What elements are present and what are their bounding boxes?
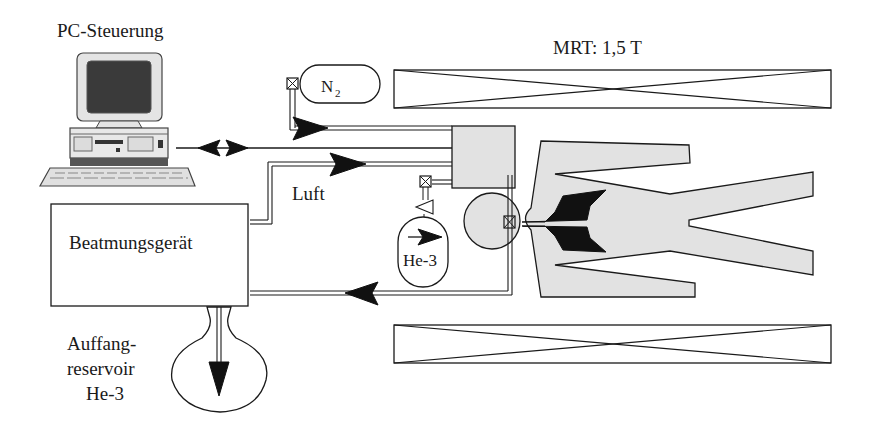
air-label: Luft <box>292 183 325 204</box>
ventilation-diagram: PC-Steuerung MRT: 1,5 T N 2 <box>0 0 869 430</box>
reservoir-label-3: He-3 <box>86 383 124 404</box>
reservoir-label-2: reservoir <box>67 358 135 379</box>
arrow-right-icon <box>330 153 366 176</box>
patient-figure <box>464 141 813 297</box>
he3-supply: He-3 <box>398 176 452 287</box>
magnet-top <box>394 70 831 108</box>
reservoir-flask <box>172 307 267 412</box>
pc-label: PC-Steuerung <box>57 20 164 41</box>
magnet-bottom <box>394 325 831 363</box>
ventilator-box <box>51 204 248 306</box>
pc-computer-icon <box>40 53 195 186</box>
n2-subscript: 2 <box>335 87 341 99</box>
arrow-down-icon <box>209 362 229 396</box>
reservoir-label-1: Auffang- <box>67 333 136 354</box>
check-valve-icon <box>416 200 433 214</box>
n2-tank: N 2 <box>287 65 380 103</box>
ventilator-label: Beatmungsgerät <box>69 232 193 253</box>
air-line <box>250 153 452 224</box>
n2-line <box>290 89 452 140</box>
mixing-unit <box>452 126 515 188</box>
mrt-label: MRT: 1,5 T <box>553 37 642 58</box>
arrow-left-icon <box>345 282 378 305</box>
pc-link <box>176 140 452 156</box>
arrow-right-icon <box>293 117 328 140</box>
he3-tank-label: He-3 <box>403 251 437 270</box>
n2-label: N <box>321 77 333 96</box>
